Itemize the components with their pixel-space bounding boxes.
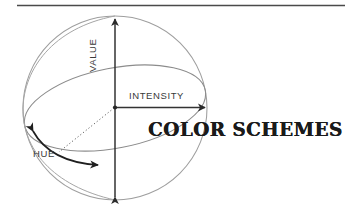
meridian-arc [23,16,115,200]
radius-guide-dotted [59,108,114,152]
page-title: COLOR SCHEMES [148,119,343,140]
intensity-axis-label: INTENSITY [129,90,184,101]
hue-axis-label: HUE [33,148,55,159]
figure-canvas: INTENSITY VALUE HUE COLOR SCHEMES [0,0,348,219]
value-axis-label: VALUE [87,39,98,72]
color-sphere-diagram [0,0,348,219]
